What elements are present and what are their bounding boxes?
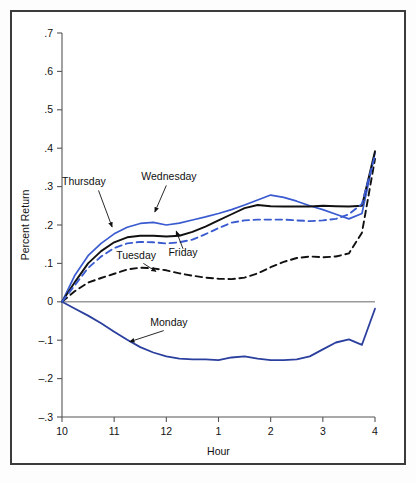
x-tick-label: 1 bbox=[216, 425, 222, 437]
y-tick-label: .5 bbox=[44, 103, 53, 115]
series-label-wednesday: Wednesday bbox=[141, 170, 197, 182]
series-line-friday bbox=[62, 155, 375, 302]
y-tick-label: 0 bbox=[47, 295, 53, 307]
y-tick-label: –.2 bbox=[38, 372, 53, 384]
series-lines bbox=[62, 151, 375, 360]
y-tick-label: .4 bbox=[44, 142, 53, 154]
y-tick-label: .1 bbox=[44, 257, 53, 269]
line-chart: .7.6.5.4.3.2.10–.1–.2–.31011121234 Monda… bbox=[0, 0, 416, 483]
y-axis-title: Percent Return bbox=[19, 190, 31, 261]
leader-arrow-thursday bbox=[99, 190, 113, 226]
y-tick-label: .3 bbox=[44, 180, 53, 192]
x-tick-label: 10 bbox=[56, 425, 68, 437]
x-tick-label: 2 bbox=[268, 425, 274, 437]
y-tick-label: .7 bbox=[44, 27, 53, 39]
y-tick-label: .6 bbox=[44, 65, 53, 77]
series-line-tuesday bbox=[62, 159, 375, 302]
x-tick-label: 4 bbox=[372, 425, 378, 437]
leader-arrow-monday bbox=[130, 331, 164, 342]
leader-arrow-wednesday bbox=[155, 185, 166, 211]
series-annotations: MondayTuesdayWednesdayThursdayFriday bbox=[62, 170, 198, 342]
x-tick-label: 3 bbox=[320, 425, 326, 437]
series-label-monday: Monday bbox=[150, 316, 188, 328]
x-tick-label: 12 bbox=[160, 425, 172, 437]
series-label-tuesday: Tuesday bbox=[116, 249, 157, 261]
x-tick-label: 11 bbox=[109, 425, 120, 437]
series-label-friday: Friday bbox=[168, 246, 198, 258]
y-tick-label: .2 bbox=[44, 219, 53, 231]
series-line-monday bbox=[62, 302, 375, 360]
figure-container: .7.6.5.4.3.2.10–.1–.2–.31011121234 Monda… bbox=[0, 0, 416, 483]
x-axis-title: Hour bbox=[207, 445, 230, 457]
y-tick-label: –.1 bbox=[38, 334, 53, 346]
axes: .7.6.5.4.3.2.10–.1–.2–.31011121234 bbox=[38, 27, 378, 437]
series-label-thursday: Thursday bbox=[62, 175, 107, 187]
y-tick-label: –.3 bbox=[38, 411, 53, 423]
